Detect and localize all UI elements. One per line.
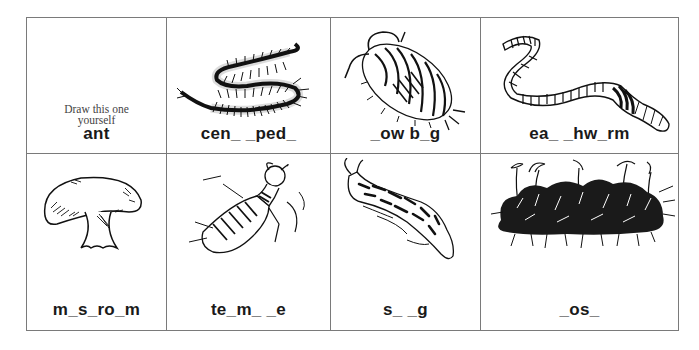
word-label-mushroom: m_s_ro_m <box>27 300 166 320</box>
word-label-earthworm: ea_ _hw_rm <box>481 124 678 144</box>
mushroom-icon <box>41 172 151 252</box>
cell-earthworm[interactable]: ea_ _hw_rm <box>481 18 678 154</box>
moss-icon <box>487 158 677 258</box>
draw-instruction: Draw this one yourself <box>27 104 166 126</box>
word-label-slug: s_ _g <box>331 300 480 320</box>
cell-termite[interactable]: te_m_ _e <box>167 154 331 330</box>
termite-icon <box>183 162 313 262</box>
slug-icon <box>337 158 467 268</box>
cell-moss[interactable]: _os_ <box>481 154 678 330</box>
cell-mushroom[interactable]: m_s_ro_m <box>27 154 167 330</box>
word-label-centipede: cen_ _ped_ <box>167 124 330 144</box>
centipede-icon <box>177 42 317 122</box>
cell-slug[interactable]: s_ _g <box>331 154 481 330</box>
cell-sow-bug[interactable]: _ow b_g <box>331 18 481 154</box>
earthworm-icon <box>493 26 678 136</box>
word-label-moss: _os_ <box>481 300 678 320</box>
cell-centipede[interactable]: cen_ _ped_ <box>167 18 331 154</box>
sow-bug-icon <box>339 24 479 134</box>
word-picture-grid: Draw this one yourself ant cen_ _ped_ <box>26 17 679 331</box>
word-label-termite: te_m_ _e <box>167 300 330 320</box>
word-label-sow-bug: _ow b_g <box>331 124 480 144</box>
cell-ant[interactable]: Draw this one yourself ant <box>27 18 167 154</box>
word-label-ant: ant <box>27 124 166 144</box>
